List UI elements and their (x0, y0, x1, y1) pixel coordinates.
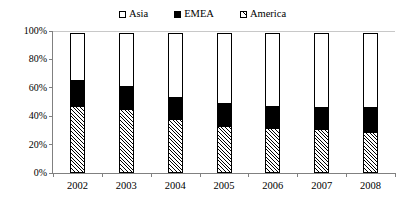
legend-label-emea: EMEA (184, 9, 214, 20)
y-axis-tick-mark (49, 87, 53, 88)
x-axis-tick-label: 2008 (360, 181, 381, 192)
x-axis-tick-label: 2007 (311, 181, 332, 192)
bar-segment-emea-2005[interactable] (217, 103, 232, 127)
bar-2005[interactable] (217, 31, 232, 173)
bar-segment-asia-2003[interactable] (119, 33, 134, 87)
x-axis-tick-label: 2005 (214, 181, 235, 192)
bar-segment-emea-2007[interactable] (314, 107, 329, 130)
bar-2006[interactable] (265, 31, 280, 173)
y-axis-tick: 20% (29, 140, 53, 150)
bar-segment-emea-2003[interactable] (119, 86, 134, 110)
x-axis-tick-mark (248, 173, 249, 177)
bar-2003[interactable] (119, 31, 134, 173)
legend-label-asia: Asia (129, 9, 148, 20)
x-axis-tick-mark (395, 173, 396, 177)
emea-swatch-icon (174, 11, 181, 18)
x-axis-tick-mark (346, 173, 347, 177)
y-axis-tick: 0% (34, 168, 53, 178)
y-axis-tick-mark (49, 116, 53, 117)
x-axis-tick-mark (297, 173, 298, 177)
y-axis-tick-mark (49, 144, 53, 145)
x-axis-tick-label: 2002 (67, 181, 88, 192)
x-axis-tick-mark (53, 173, 54, 177)
x-axis-tick-label: 2006 (262, 181, 283, 192)
y-axis-tick-label: 0% (34, 168, 47, 178)
bar-2004[interactable] (168, 31, 183, 173)
america-swatch-icon (240, 11, 247, 18)
x-axis-tick-mark (200, 173, 201, 177)
bar-2008[interactable] (363, 31, 378, 173)
stacked-bar-chart: Asia EMEA America 0%20%40%60%80%100% 200… (0, 0, 405, 205)
bar-segment-america-2002[interactable] (70, 106, 85, 173)
y-axis-tick-label: 100% (24, 26, 47, 36)
y-axis-tick-label: 60% (29, 83, 47, 93)
bar-segment-emea-2006[interactable] (265, 106, 280, 129)
bar-segment-emea-2004[interactable] (168, 97, 183, 120)
bar-segment-asia-2007[interactable] (314, 33, 329, 108)
bar-segment-asia-2008[interactable] (363, 33, 378, 108)
y-axis-tick: 60% (29, 83, 53, 93)
bar-segment-america-2004[interactable] (168, 119, 183, 173)
bar-segment-america-2008[interactable] (363, 132, 378, 173)
y-axis-tick: 100% (24, 26, 53, 36)
y-axis-tick-label: 80% (29, 54, 47, 64)
bar-segment-emea-2008[interactable] (363, 107, 378, 133)
y-axis-tick: 40% (29, 111, 53, 121)
asia-swatch-icon (119, 11, 126, 18)
bar-segment-america-2003[interactable] (119, 109, 134, 173)
x-axis-tick-label: 2003 (116, 181, 137, 192)
x-axis-tick-mark (102, 173, 103, 177)
bar-segment-asia-2004[interactable] (168, 33, 183, 98)
legend-item-america[interactable]: America (240, 9, 286, 20)
plot-area: 0%20%40%60%80%100% 200220032004200520062… (52, 31, 395, 174)
x-axis-tick-label: 2004 (165, 181, 186, 192)
legend-label-america: America (250, 9, 286, 20)
bar-segment-asia-2006[interactable] (265, 33, 280, 107)
bar-segment-america-2007[interactable] (314, 129, 329, 173)
bar-2007[interactable] (314, 31, 329, 173)
y-axis-tick-mark (49, 59, 53, 60)
y-axis-tick: 80% (29, 54, 53, 64)
bar-2002[interactable] (70, 31, 85, 173)
y-axis-tick-label: 20% (29, 140, 47, 150)
y-axis-tick-mark (49, 31, 53, 32)
x-axis-tick-mark (151, 173, 152, 177)
bar-segment-asia-2005[interactable] (217, 33, 232, 104)
legend-item-emea[interactable]: EMEA (174, 9, 214, 20)
bar-segment-america-2005[interactable] (217, 126, 232, 173)
y-axis-tick-label: 40% (29, 111, 47, 121)
chart-legend: Asia EMEA America (0, 7, 405, 22)
bar-segment-emea-2002[interactable] (70, 80, 85, 107)
legend-item-asia[interactable]: Asia (119, 9, 148, 20)
bar-segment-asia-2002[interactable] (70, 33, 85, 81)
bar-segment-america-2006[interactable] (265, 128, 280, 173)
